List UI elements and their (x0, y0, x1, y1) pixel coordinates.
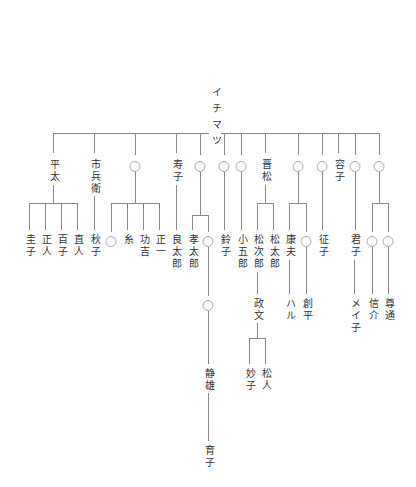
person-name: 小五郎 (235, 233, 247, 271)
person-name: 君子 (348, 233, 360, 259)
person-name: ハル (283, 297, 295, 323)
unknown-person-circle-icon (203, 300, 214, 311)
person-name: 平太 (47, 158, 59, 184)
unknown-person-circle-icon (374, 161, 385, 172)
person-name: 創平 (300, 297, 312, 323)
person-name: 静雄 (202, 367, 214, 393)
unknown-person-circle-icon (203, 236, 214, 247)
person-name: 鈴子 (218, 233, 230, 259)
person-name: 妙子 (243, 367, 255, 393)
unknown-person-circle-icon (350, 161, 361, 172)
person-name: 糸 (121, 233, 133, 247)
person-name: 市兵衛 (88, 158, 100, 196)
unknown-person-circle-icon (219, 161, 230, 172)
unknown-person-circle-icon (317, 161, 328, 172)
unknown-person-circle-icon (130, 161, 141, 172)
person-name: 直人 (71, 233, 83, 259)
person-name: 正一 (153, 233, 165, 259)
person-name: 百子 (55, 233, 67, 259)
person-name: 容子 (332, 158, 344, 184)
person-name: 松次郎 (251, 233, 263, 271)
person-name: 政文 (251, 297, 263, 323)
person-name: 松人 (259, 367, 271, 393)
person-name: 功吉 (137, 233, 149, 259)
unknown-person-circle-icon (106, 236, 117, 247)
unknown-person-circle-icon (236, 161, 247, 172)
person-name: 正人 (39, 233, 51, 259)
unknown-person-circle-icon (383, 236, 394, 247)
unknown-person-circle-icon (293, 161, 304, 172)
person-name: 秋子 (88, 233, 100, 259)
person-name: 尊通 (382, 297, 394, 323)
person-name: 育子 (202, 444, 214, 470)
person-name: 征子 (316, 233, 328, 259)
person-name: 圭子 (23, 233, 35, 259)
person-name: 寿子 (170, 158, 182, 184)
unknown-person-circle-icon (367, 236, 378, 247)
person-name: 信介 (366, 297, 378, 323)
root-person-name: イチマツ (209, 86, 221, 152)
family-tree-diagram: イチマツ平太市兵衛寿子晋松容子圭子正人百子直人秋子糸功吉正一良太郎孝太郎鈴子小五… (0, 0, 416, 487)
person-name: 晋松 (259, 158, 271, 184)
unknown-person-circle-icon (301, 236, 312, 247)
person-name: 孝太郎 (186, 233, 198, 271)
person-name: 康夫 (283, 233, 295, 259)
unknown-person-circle-icon (195, 161, 206, 172)
person-name: 松太郎 (267, 233, 279, 271)
person-name: 良太郎 (169, 233, 181, 271)
person-name: メイ子 (348, 297, 360, 335)
